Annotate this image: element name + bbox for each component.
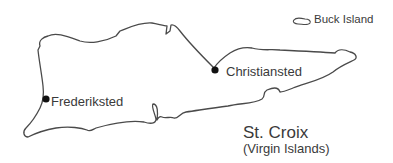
map-title: St. Croix [243, 124, 308, 141]
buck-island-outline [293, 18, 310, 25]
christiansted-marker [211, 66, 218, 73]
map-subtitle: (Virgin Islands) [243, 142, 329, 155]
christiansted-label: Christiansted [226, 65, 302, 78]
st-croix-island-outline [24, 23, 356, 137]
frederiksted-label: Frederiksted [51, 95, 123, 108]
frederiksted-marker [42, 95, 49, 102]
buck-island-label: Buck Island [314, 14, 373, 26]
